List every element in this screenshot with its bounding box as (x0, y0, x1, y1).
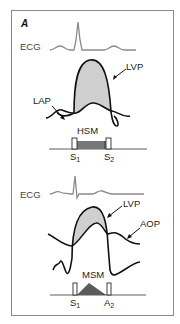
ecg-label-top: ECG (20, 41, 41, 52)
a2-label-bottom: A2 (104, 297, 114, 309)
ecg-label-bottom: ECG (20, 189, 41, 200)
phonocardiogram-bottom (50, 283, 146, 295)
lvp-label-top: LVP (126, 61, 143, 72)
panel-label: A (20, 18, 28, 29)
lap-trace-top (46, 103, 130, 118)
lvp-label-bottom: LVP (123, 198, 140, 209)
lvp-arrow-bottom (109, 206, 122, 216)
msm-label: MSM (82, 269, 104, 280)
s2-label-top: S2 (104, 151, 114, 163)
hsm-label: HSM (77, 125, 98, 136)
top-panel: ECG LVP LAP HSM (20, 22, 147, 163)
cardiac-pressure-diagram: A ECG LVP LAP HSM (0, 0, 180, 324)
bottom-panel: ECG LVP AOP MSM (20, 176, 160, 309)
ecg-trace-top (50, 22, 136, 50)
s1-label-bottom: S1 (70, 297, 80, 309)
phonocardiogram-top (49, 138, 147, 149)
lap-label-top: LAP (33, 95, 51, 106)
aop-trace-bottom (48, 223, 140, 246)
aop-label-bottom: AOP (140, 218, 160, 229)
s1-label-top: S1 (70, 151, 80, 163)
ecg-trace-bottom (50, 176, 144, 198)
lap-arrow-top (52, 106, 63, 118)
